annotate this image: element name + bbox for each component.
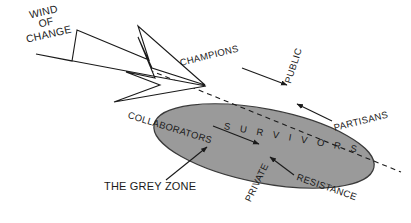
diagram-canvas: WIND OF CHANGE CHAMPIONS PUBLIC PARTISAN… (0, 0, 411, 223)
champions-arrow (242, 68, 287, 85)
grey-zone-label: THE GREY ZONE (104, 181, 196, 193)
